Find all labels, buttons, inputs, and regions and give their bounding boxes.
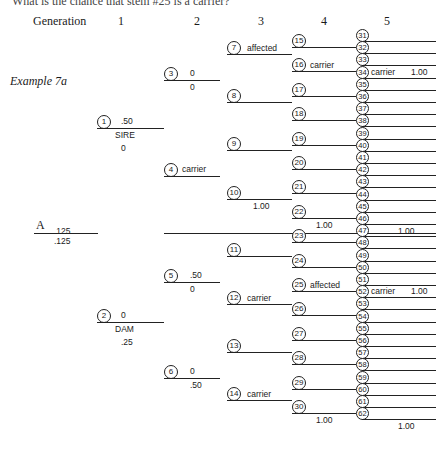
node-line [362, 187, 436, 188]
node-line [362, 224, 436, 225]
node-circle-2: 2 [97, 309, 111, 323]
node-circle-17: 17 [292, 83, 306, 97]
node-line [362, 248, 436, 249]
node-line [164, 176, 220, 177]
node-circle-30: 30 [292, 400, 306, 414]
node-bottom-value: 1.00 [398, 421, 415, 431]
node-line [362, 261, 436, 262]
root-top-value: .125 [54, 226, 71, 236]
node-line [164, 80, 220, 81]
node-line [227, 304, 292, 305]
node-circle-18: 18 [292, 107, 306, 121]
node-circle-12: 12 [227, 291, 241, 305]
node-circle-21: 21 [292, 180, 306, 194]
generation-header-label: Generation [33, 14, 86, 29]
root-bottom-value: .125 [54, 236, 71, 246]
node-top-value: affected [310, 280, 340, 290]
node-top-value: 0 [121, 310, 126, 320]
node-line [362, 334, 436, 335]
node-line [362, 175, 436, 176]
node-circle-7: 7 [227, 41, 241, 55]
generation-1-header: 1 [118, 14, 124, 29]
node-circle-24: 24 [292, 254, 306, 268]
node-circle-6: 6 [164, 365, 178, 379]
node-line [227, 400, 292, 401]
node-circle-16: 16 [292, 58, 306, 72]
node-bottom-value: .50 [190, 380, 202, 390]
node-circle-29: 29 [292, 376, 306, 390]
question-text: What is the chance that stem #25 is a ca… [12, 0, 230, 9]
node-line [292, 169, 356, 170]
node-line [362, 151, 436, 152]
node-line [362, 102, 436, 103]
node-line [362, 383, 436, 384]
node-circle-20: 20 [292, 156, 306, 170]
node-top-value: carrier [310, 60, 334, 70]
node-line [362, 90, 436, 91]
node-circle-26: 26 [292, 302, 306, 316]
node-line [292, 145, 356, 146]
node-line [292, 47, 356, 48]
node-circle-3: 3 [164, 67, 178, 81]
node-line [292, 413, 356, 414]
node-line [292, 242, 356, 243]
node-circle-13: 13 [227, 339, 241, 353]
node-bottom-value: 0 [190, 82, 195, 92]
root-line [34, 233, 98, 234]
node-line [362, 322, 436, 323]
node-role-label: SIRE [115, 130, 135, 140]
node-line [362, 309, 436, 310]
node-top-value: .50 [121, 116, 133, 126]
node-line [97, 322, 164, 323]
node-line [362, 273, 436, 274]
node-circle-23: 23 [292, 229, 306, 243]
node-top-value: carrier [182, 164, 206, 174]
node-probability-value: 1.00 [411, 286, 428, 296]
node-line [362, 358, 436, 359]
node-line [362, 236, 436, 237]
node-role-label: DAM [115, 324, 134, 334]
node-bottom-value: .25 [121, 337, 133, 347]
example-label: Example 7a [10, 74, 67, 89]
generation-2-header: 2 [194, 14, 200, 29]
node-circle-1: 1 [97, 115, 111, 129]
node-status-label: carrier [371, 67, 395, 77]
node-line [292, 218, 356, 219]
node-line [362, 163, 436, 164]
node-line [362, 41, 436, 42]
node-line [292, 120, 356, 121]
node-line [164, 282, 220, 283]
node-top-value: 0 [190, 68, 195, 78]
node-line [292, 291, 356, 292]
node-line [362, 200, 436, 201]
node-status-label: carrier [371, 286, 395, 296]
node-top-value: carrier [247, 293, 271, 303]
node-line [292, 193, 356, 194]
node-line [362, 419, 436, 420]
node-line [292, 267, 356, 268]
node-circle-27: 27 [292, 327, 306, 341]
node-line [362, 139, 436, 140]
node-line [362, 370, 436, 371]
generation-4-header: 4 [321, 14, 327, 29]
node-top-value: 0 [190, 366, 195, 376]
generation-5-header: 5 [384, 14, 390, 29]
node-line [227, 256, 292, 257]
node-line [292, 96, 356, 97]
node-line [164, 378, 220, 379]
node-line [292, 340, 356, 341]
node-bottom-value: 1.00 [316, 415, 333, 425]
node-top-value: .50 [190, 270, 202, 280]
node-top-value: affected [247, 43, 277, 53]
node-line [362, 114, 436, 115]
node-circle-22: 22 [292, 205, 306, 219]
node-line [97, 128, 164, 129]
node-line [292, 389, 356, 390]
node-line [227, 54, 292, 55]
node-line [362, 297, 436, 298]
node-circle-9: 9 [227, 137, 241, 151]
node-bottom-value: 0 [121, 143, 126, 153]
node-circle-10: 10 [227, 186, 241, 200]
node-line [362, 53, 436, 54]
node-line [362, 395, 436, 396]
